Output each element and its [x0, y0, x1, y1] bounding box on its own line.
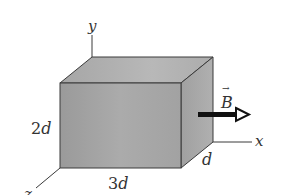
y-axis-label: y	[87, 17, 97, 35]
width-dimension-label: 3d	[108, 174, 128, 193]
box-diagram: y x z 2d 3d d B →	[0, 0, 291, 195]
depth-dimension-label: d	[202, 150, 212, 169]
x-axis-label: x	[255, 132, 264, 150]
box-front-face	[60, 83, 181, 168]
field-vector-mark: →	[222, 83, 230, 93]
height-dimension-label: 2d	[31, 119, 51, 138]
field-label: B	[220, 93, 233, 112]
z-axis-line	[36, 168, 60, 188]
z-axis-label: z	[23, 185, 32, 195]
